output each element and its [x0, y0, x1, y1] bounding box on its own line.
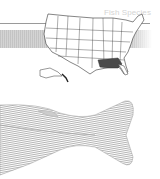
- fish-tail-illustration: [0, 95, 160, 179]
- highlighted-region: [98, 58, 122, 68]
- us-map: [38, 12, 153, 87]
